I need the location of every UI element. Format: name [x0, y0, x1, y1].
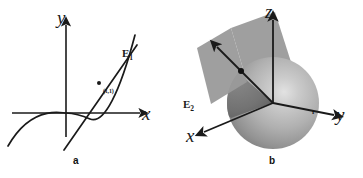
tangent-point-label: (1,1) [103, 88, 114, 94]
panel-b-sphere-tangent-plane: z y x E2 r b [181, 0, 363, 178]
tangency-point-marker [238, 68, 244, 74]
panel-a-x-axis-label: x [142, 104, 150, 123]
panel-b-graphics [181, 0, 363, 178]
tangent-plane-subscript: 2 [190, 104, 194, 113]
panel-a-graphics [0, 0, 181, 178]
tangent-vector-label: E1 [122, 48, 133, 62]
panel-a-parabola-tangent: y x E1 (1,1) a [0, 0, 181, 178]
panel-a-caption: a [73, 156, 79, 166]
panel-b-x-axis-label: x [186, 126, 194, 145]
tangent-point-marker [97, 81, 101, 85]
tangent-vector-subscript: 1 [129, 53, 133, 62]
tangent-plane-label: E2 [183, 99, 194, 113]
radius-label: r [312, 109, 315, 116]
panel-b-z-axis-label: z [265, 2, 272, 21]
panel-b-y-axis-label: y [336, 105, 344, 124]
parabola-curve [8, 35, 135, 146]
figure-container: y x E1 (1,1) a [0, 0, 363, 178]
panel-a-y-axis-label: y [57, 8, 65, 27]
panel-b-caption: b [269, 156, 275, 166]
